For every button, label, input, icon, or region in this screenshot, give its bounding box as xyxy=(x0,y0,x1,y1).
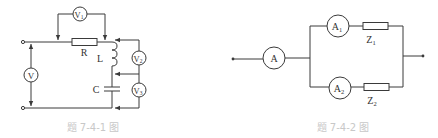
voltmeter-v-label: V xyxy=(28,71,35,81)
figure-7-4-2: A A1 Z1 A2 Z2 题 7-4-2 图 xyxy=(232,15,425,133)
input-terminal-top xyxy=(21,40,24,43)
output-terminal-right xyxy=(422,55,425,58)
resistor-r xyxy=(72,39,97,46)
resistor-label: R xyxy=(81,47,88,58)
circuit-diagrams: R L C V V1 V2 V3 题 7-4- xyxy=(0,0,438,138)
impedance-z2 xyxy=(364,84,389,91)
ammeter-a-label: A xyxy=(270,53,278,64)
figure-caption: 题 7-4-1 图 xyxy=(67,122,120,133)
figure-7-4-1: R L C V V1 V2 V3 题 7-4- xyxy=(21,7,146,133)
voltmeter-v1-lead-left xyxy=(58,14,73,40)
impedance-z2-label: Z2 xyxy=(367,95,376,107)
inductor-label: L xyxy=(97,53,103,64)
impedance-z1-label: Z1 xyxy=(366,34,375,46)
inductor-l xyxy=(112,42,117,87)
voltmeter-v1-lead-right xyxy=(87,14,105,40)
impedance-z1 xyxy=(363,23,388,30)
capacitor-label: C xyxy=(93,84,100,95)
figure-caption: 题 7-4-2 图 xyxy=(317,122,370,133)
input-terminal-bottom xyxy=(21,106,24,109)
